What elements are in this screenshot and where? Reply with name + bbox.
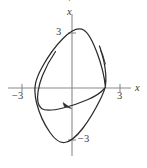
inner-trajectory-curve [38, 52, 105, 111]
x-axis-label: x [135, 83, 140, 94]
limit-cycle-curve [35, 29, 106, 143]
plot-canvas [0, 0, 147, 168]
y-axis-label: ˙ x [67, 2, 72, 17]
x-tick-label-positive-3: 3 [117, 91, 122, 102]
phase-portrait-figure: ˙ x x 3 −3 −3 3 [0, 0, 147, 168]
y-tick-label-negative-3: −3 [78, 134, 89, 145]
y-axis-variable: x [67, 6, 72, 17]
x-tick-label-negative-3: −3 [12, 91, 23, 102]
flow-direction-arrow-right [101, 51, 106, 65]
y-tick-label-positive-3: 3 [56, 27, 61, 38]
